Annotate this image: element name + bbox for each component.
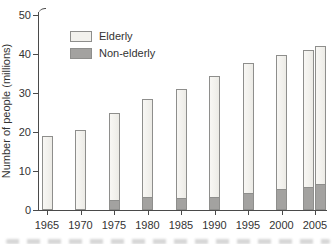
y-tick-label: 50 [6, 9, 31, 21]
non-elderly-segment-2005 [316, 184, 325, 209]
x-tick-mark [282, 211, 283, 215]
x-tick-label: 1970 [66, 219, 96, 231]
legend-item-non-elderly: Non-elderly [70, 45, 155, 61]
legend-item-elderly: Elderly [70, 28, 155, 44]
non-elderly-segment-1985 [177, 198, 186, 209]
non-elderly-segment-2004 [304, 187, 313, 209]
y-tick-label: 20 [6, 126, 31, 138]
bar-1970 [75, 130, 86, 210]
y-tick-label: 10 [6, 165, 31, 177]
bar-1995 [243, 63, 254, 210]
legend-label-non-elderly: Non-elderly [99, 47, 155, 59]
y-tick-mark [33, 171, 38, 172]
y-tick-mark [33, 93, 38, 94]
x-tick-label: 1980 [133, 219, 163, 231]
y-axis-top-hook [38, 8, 46, 16]
y-tick-label: 0 [6, 204, 31, 216]
stacked-bar-chart: Number of people (millions) Elderly Non-… [0, 0, 335, 244]
x-tick-label: 1965 [32, 219, 62, 231]
bar-2000 [276, 55, 287, 210]
non-elderly-segment-1995 [244, 193, 253, 209]
non-elderly-segment-2000 [277, 189, 286, 209]
x-tick-label: 1975 [99, 219, 129, 231]
x-tick-mark [248, 211, 249, 215]
y-tick-mark [33, 15, 38, 16]
bar-1980 [142, 99, 153, 210]
y-axis-title: Number of people (millions) [0, 11, 13, 211]
y-tick-label: 30 [6, 87, 31, 99]
x-tick-mark [47, 211, 48, 215]
x-tick-label: 2005 [300, 219, 330, 231]
y-tick-label: 40 [6, 48, 31, 60]
bar-1985 [176, 89, 187, 210]
non-elderly-segment-1975 [110, 200, 119, 209]
x-tick-mark [148, 211, 149, 215]
x-tick-label: 1990 [200, 219, 230, 231]
x-tick-mark [181, 211, 182, 215]
x-tick-mark [114, 211, 115, 215]
non-elderly-segment-1990 [210, 197, 219, 209]
x-tick-label: 1995 [233, 219, 263, 231]
bar-1990 [209, 76, 220, 210]
legend-label-elderly: Elderly [99, 30, 133, 42]
y-axis-line [38, 12, 39, 210]
legend: Elderly Non-elderly [70, 28, 155, 62]
x-tick-mark [215, 211, 216, 215]
non-elderly-swatch [70, 48, 92, 59]
x-tick-label: 1985 [166, 219, 196, 231]
y-tick-mark [33, 132, 38, 133]
x-tick-label: 2000 [267, 219, 297, 231]
bar-2005 [315, 46, 326, 210]
y-tick-mark [33, 210, 38, 211]
non-elderly-segment-1980 [143, 197, 152, 209]
y-tick-mark [33, 54, 38, 55]
bar-1975 [109, 113, 120, 211]
x-tick-mark [81, 211, 82, 215]
elderly-swatch [70, 31, 92, 42]
bar-1965 [42, 136, 53, 210]
x-tick-mark [315, 211, 316, 215]
bar-2004 [303, 50, 314, 210]
cropped-caption-remnant [6, 239, 330, 244]
